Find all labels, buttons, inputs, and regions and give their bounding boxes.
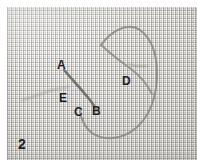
thread-crossing-mark xyxy=(128,64,147,66)
figure-number: 2 xyxy=(18,137,26,151)
thread-illustration xyxy=(0,0,197,160)
label-a: A xyxy=(57,59,66,71)
paper-margin-left xyxy=(0,0,7,160)
paper-margin-top xyxy=(0,0,197,7)
label-c: C xyxy=(74,106,83,118)
label-e: E xyxy=(59,92,67,104)
label-d: D xyxy=(122,75,131,87)
label-b: B xyxy=(92,105,101,117)
figure-container: A B C D E 2 xyxy=(0,0,197,160)
